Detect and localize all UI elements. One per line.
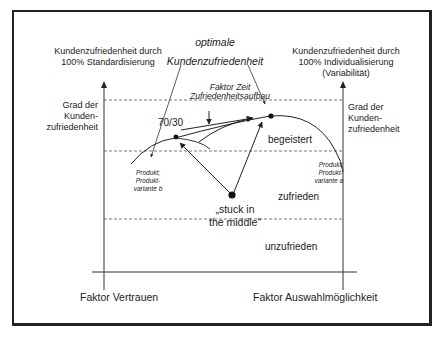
arrow-stuck-to-70-30 (180, 143, 230, 193)
right-y-axis (340, 81, 346, 290)
right-y-axis-label: Grad der Kunden- zufriedenheit (348, 102, 418, 135)
product-a-line: Produkt- (303, 169, 343, 177)
stuck-line: the middle“ (200, 216, 270, 229)
right-axis-heading-line: 100% Individualisierung (291, 57, 401, 68)
zone-begeistert: begeistert (268, 134, 312, 145)
factor-time-label: Faktor Zeit Zufriedenheitsaufbau (180, 83, 280, 101)
right-axis-heading: Kundenzufriedenheit durch 100% Individua… (291, 46, 401, 79)
left-axis-heading: Kundenzufriedenheit durch 100% Standardi… (48, 46, 168, 68)
arrow-70-30-to-optimum (181, 118, 253, 130)
product-b-line: Produkt; (128, 169, 168, 177)
y-label-line: Kunden- (46, 111, 98, 122)
point-70-30 (174, 135, 179, 140)
right-axis-heading-line: (Variabilität) (291, 68, 401, 79)
arrow-stuck-to-optimum (234, 122, 262, 192)
optimal-satisfaction-title: optimale Kundenzufriedenheit (160, 36, 270, 68)
x-label-left: Faktor Vertrauen (80, 292, 158, 303)
product-b-line: Produkt- (128, 177, 168, 185)
point-optimum (268, 113, 273, 118)
left-axis-heading-line: Kundenzufriedenheit durch (48, 46, 168, 57)
left-y-axis (101, 81, 107, 290)
x-label-right: Faktor Auswahlmöglichkeit (253, 292, 377, 303)
right-axis-heading-line: Kundenzufriedenheit durch (291, 46, 401, 57)
factor-time-line: Zufriedenheitsaufbau (180, 92, 280, 101)
product-variant-b-label: Produkt; Produkt- variante b (128, 169, 168, 193)
y-label-line: Grad der (46, 100, 98, 111)
product-b-line: variante b (128, 185, 168, 193)
y-label-line: Kunden- (348, 113, 418, 124)
product-a-line: Produkt; (303, 161, 343, 169)
stuck-in-middle-label: „stuck in the middle“ (200, 203, 270, 229)
left-y-axis-label: Grad der Kunden- zufriedenheit (46, 100, 98, 133)
leader-line-left (151, 65, 181, 157)
y-label-line: zufriedenheit (348, 124, 418, 135)
y-label-line: zufriedenheit (46, 122, 98, 133)
y-label-line: Grad der (348, 102, 418, 113)
zone-unzufrieden: unzufrieden (265, 241, 317, 252)
left-axis-heading-line: 100% Standardisierung (48, 57, 168, 68)
product-variant-a-label: Produkt; Produkt- variante a (303, 161, 343, 185)
title-line: optimale (160, 36, 270, 49)
stuck-line: „stuck in (200, 203, 270, 216)
title-line: Kundenzufriedenheit (160, 55, 270, 68)
ratio-label: 70/30 (158, 117, 183, 128)
product-a-line: variante a (303, 177, 343, 185)
zone-zufrieden: zufrieden (278, 191, 319, 202)
